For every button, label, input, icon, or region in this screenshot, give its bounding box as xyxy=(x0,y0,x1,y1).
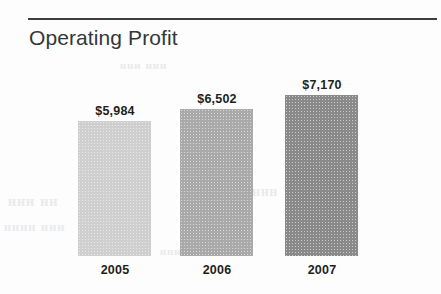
bar-chart-plot-area: $5,984 2005 $6,502 2006 $7,170 2007 xyxy=(0,0,441,294)
bar-2007 xyxy=(285,95,358,256)
bar-fill xyxy=(180,109,253,256)
bar-category-label: 2007 xyxy=(272,263,372,277)
bar-fill xyxy=(285,95,358,256)
bar-value-label: $6,502 xyxy=(167,92,267,106)
bar-value-label: $7,170 xyxy=(272,78,372,92)
chart-page: ᴴᴴᴴ ᴴᴴ ᴴᴴᴴᴴ ᴴᴴᴴ ᴴᴴᴴᴴᴴ ᴴᴴᴴᴴ ᴴᴴᴴ ᴴᴴᴴᴴᴴ ᴴᴴᴴ… xyxy=(0,0,441,294)
bar-value-label: $5,984 xyxy=(65,104,165,118)
bar-fill xyxy=(78,121,151,256)
bar-2006 xyxy=(180,109,253,256)
bar-2005 xyxy=(78,121,151,256)
bar-category-label: 2005 xyxy=(65,263,165,277)
bar-category-label: 2006 xyxy=(167,263,267,277)
